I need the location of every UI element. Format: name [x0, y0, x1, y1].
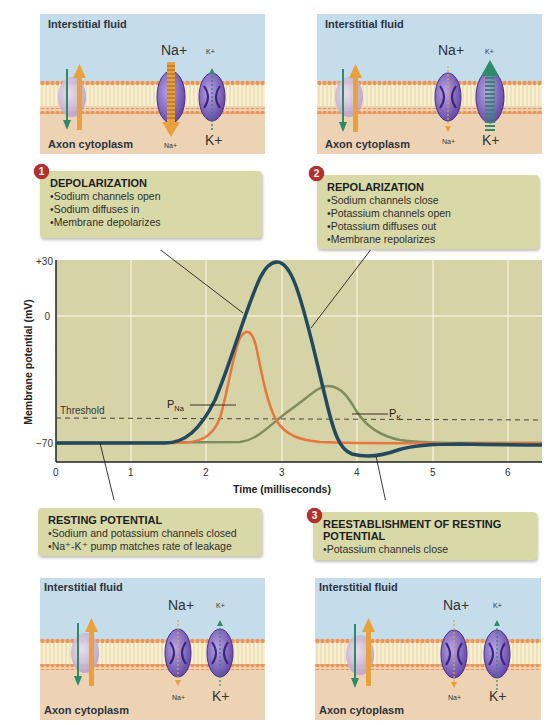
x-tick-0: 0 [53, 467, 59, 478]
step-3-badge: 3 [307, 508, 322, 523]
list-item: Sodium channels open [50, 190, 252, 203]
na-ion-bottom-label: Na+ [164, 142, 177, 149]
step-1-badge: 1 [34, 164, 49, 179]
axon-cytoplasm-label: Axon cytoplasm [325, 138, 410, 150]
y-tick-labels: +30 0 −70 [36, 256, 53, 449]
list-item: Sodium and potassium channels closed [48, 527, 252, 540]
k-ion-top-label: K+ [206, 48, 215, 55]
x-tick-1: 1 [128, 467, 134, 478]
k-ion-bottom-label: K+ [482, 132, 500, 148]
interstitial-fluid-label: Interstitial fluid [325, 18, 404, 30]
na-ion-top-label: Na+ [438, 42, 464, 58]
reestablishment-title-line2: POTENTIAL [323, 530, 527, 543]
y-tick-0: 0 [44, 311, 50, 322]
na-ion-top-label: Na+ [443, 597, 469, 613]
interstitial-fluid-label: Interstitial fluid [48, 18, 127, 30]
na-ion-top-label: Na+ [168, 597, 194, 613]
k-ion-top-label: K+ [216, 602, 225, 609]
na-ion-bottom-label: Na+ [442, 138, 455, 145]
y-tick-minus70: −70 [36, 438, 53, 449]
list-item: Potassium diffuses out [327, 220, 529, 233]
interstitial-fluid-label: Interstitial fluid [44, 581, 123, 593]
x-tick-5: 5 [430, 467, 436, 478]
repolarization-title: REPOLARIZATION [327, 181, 529, 194]
na-ion-top-label: Na+ [161, 42, 187, 58]
membrane-panel-bottom-left: Interstitial fluid Axon cytoplasm Na+ K+… [40, 578, 265, 720]
axon-cytoplasm-label: Axon cytoplasm [44, 704, 129, 716]
list-item: Sodium diffuses in [50, 203, 252, 216]
x-tick-3: 3 [279, 467, 285, 478]
k-ion-bottom-label: K+ [212, 688, 230, 704]
reestablishment-info-box: REESTABLISHMENT OF RESTING POTENTIAL Pot… [313, 512, 537, 560]
resting-potential-info-box: RESTING POTENTIAL Sodium and potassium c… [38, 508, 262, 556]
list-item: Membrane depolarizes [50, 216, 252, 229]
repolarization-info-box: REPOLARIZATION Sodium channels close Pot… [317, 175, 539, 249]
reestablishment-list: Potassium channels close [323, 543, 527, 556]
action-potential-chart: 0 1 2 3 4 5 6 +30 0 −70 Time (millisecon… [0, 250, 550, 500]
na-ion-bottom-label: Na+ [172, 694, 185, 701]
interstitial-fluid-label: Interstitial fluid [319, 581, 398, 593]
x-tick-4: 4 [354, 467, 360, 478]
membrane-panel-top-left: Interstitial fluid Axon cytoplasm Na+ K+… [40, 14, 265, 154]
resting-potential-list: Sodium and potassium channels closed Na⁺… [48, 527, 252, 553]
membrane-bilayer-illustration [317, 14, 542, 154]
depolarization-title: DEPOLARIZATION [50, 177, 252, 190]
depolarization-info-box: DEPOLARIZATION Sodium channels open Sodi… [40, 171, 262, 238]
k-ion-bottom-label: K+ [489, 688, 507, 704]
membrane-panel-bottom-right: Interstitial fluid Axon cytoplasm Na+ K+… [315, 578, 541, 720]
k-ion-top-label: K+ [493, 602, 502, 609]
membrane-bilayer-illustration [315, 578, 541, 720]
list-item: Sodium channels close [327, 194, 529, 207]
x-tick-2: 2 [203, 467, 209, 478]
list-item: Na⁺-K⁺ pump matches rate of leakage [48, 540, 252, 553]
x-axis-title: Time (milliseconds) [233, 483, 331, 495]
x-tick-labels: 0 1 2 3 4 5 6 [53, 467, 511, 478]
membrane-panel-top-right: Interstitial fluid Axon cytoplasm Na+ K+… [317, 14, 542, 154]
membrane-bilayer-illustration [40, 14, 265, 154]
k-ion-bottom-label: K+ [205, 132, 223, 148]
axon-cytoplasm-label: Axon cytoplasm [319, 704, 404, 716]
list-item: Potassium channels close [323, 543, 527, 556]
y-tick-plus30: +30 [36, 256, 53, 267]
na-ion-bottom-label: Na+ [448, 694, 461, 701]
depolarization-list: Sodium channels open Sodium diffuses in … [50, 190, 252, 229]
resting-potential-title: RESTING POTENTIAL [48, 514, 252, 527]
k-ion-top-label: K+ [485, 48, 494, 55]
list-item: Potassium channels open [327, 207, 529, 220]
step-2-badge: 2 [309, 166, 324, 181]
list-item: Membrane repolarizes [327, 233, 529, 246]
x-tick-6: 6 [505, 467, 511, 478]
membrane-bilayer-illustration [40, 578, 265, 720]
y-axis-title: Membrane potential (mV) [22, 299, 34, 424]
repolarization-list: Sodium channels close Potassium channels… [327, 194, 529, 246]
axon-cytoplasm-label: Axon cytoplasm [48, 138, 133, 150]
threshold-label: Threshold [60, 405, 104, 416]
